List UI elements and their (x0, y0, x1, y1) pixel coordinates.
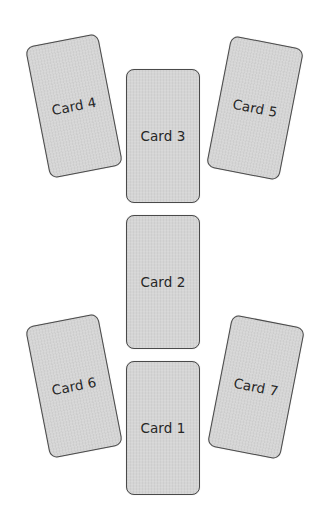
card-3-label: Card 3 (140, 128, 185, 144)
card-4-label: Card 4 (50, 94, 97, 118)
card-1: Card 1 (126, 361, 200, 495)
card-6-label: Card 6 (50, 374, 97, 398)
card-7-label: Card 7 (232, 375, 279, 399)
card-5-label: Card 5 (231, 96, 278, 120)
card-spread-diagram: Card 4 Card 3 Card 5 Card 2 Card 6 Card … (0, 0, 317, 519)
card-4: Card 4 (25, 33, 123, 179)
card-3: Card 3 (126, 69, 200, 203)
card-1-label: Card 1 (140, 420, 185, 436)
card-6: Card 6 (25, 313, 123, 459)
card-2-label: Card 2 (140, 274, 185, 290)
card-5: Card 5 (206, 35, 304, 181)
card-2: Card 2 (126, 215, 200, 349)
card-7: Card 7 (207, 314, 305, 460)
